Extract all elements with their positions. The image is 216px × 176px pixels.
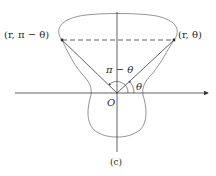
angle-right-label: θ (136, 81, 142, 92)
figure-caption: (c) (110, 157, 122, 167)
point-right-marker (173, 39, 176, 42)
point-left-label: (r, π − θ) (4, 29, 49, 40)
point-right-label: (r, θ) (178, 29, 202, 40)
angle-arc-theta (129, 81, 134, 93)
angle-left-label: π − θ (105, 64, 133, 75)
point-left-marker (61, 39, 64, 42)
polar-curve (59, 14, 178, 138)
figure-svg: (r, π − θ) (r, θ) π − θ θ O (c) (0, 0, 216, 176)
origin-label: O (107, 97, 115, 108)
polar-symmetry-figure: (r, π − θ) (r, θ) π − θ θ O (c) (0, 0, 216, 176)
